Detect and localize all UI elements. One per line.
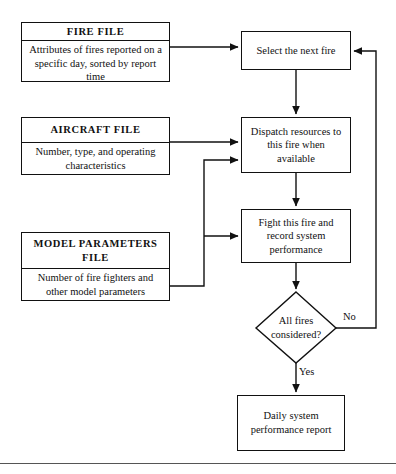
select-next-fire-label: Select the next fire <box>256 44 335 58</box>
fight-fire-label: Fight this fire and record system perfor… <box>247 216 345 257</box>
fight-fire-node: Fight this fire and record system perfor… <box>241 209 351 263</box>
fire-file-description: Attributes of fires reported on a specif… <box>22 41 169 85</box>
dispatch-resources-node: Dispatch resources to this fire when ava… <box>241 117 351 173</box>
model-parameters-file-description: Number of fire fighters and other model … <box>22 269 169 300</box>
fire-file-title: FIRE FILE <box>22 23 169 41</box>
dispatch-resources-label: Dispatch resources to this fire when ava… <box>247 125 345 166</box>
decision-branch-label-yes: Yes <box>299 366 314 377</box>
decision-branch-label-no: No <box>343 311 356 322</box>
aircraft-file-description: Number, type, and operating characterist… <box>22 143 169 174</box>
footer-divider <box>0 463 396 464</box>
aircraft-file-title: AIRCRAFT FILE <box>22 118 169 143</box>
aircraft-file-node: AIRCRAFT FILE Number, type, and operatin… <box>21 117 170 175</box>
all-fires-considered-decision: All fires considered? <box>256 292 336 363</box>
daily-report-label: Daily system performance report <box>243 409 339 436</box>
edge-decision-no-to-select <box>336 51 376 328</box>
daily-report-node: Daily system performance report <box>237 395 345 451</box>
flowchart-canvas: FIRE FILE Attributes of fires reported o… <box>0 0 396 474</box>
model-parameters-file-node: MODEL PARAMETERS FILE Number of fire fig… <box>21 232 170 301</box>
all-fires-considered-label: All fires considered? <box>256 292 336 363</box>
model-parameters-file-title: MODEL PARAMETERS FILE <box>22 233 169 269</box>
fire-file-node: FIRE FILE Attributes of fires reported o… <box>21 22 170 82</box>
select-next-fire-node: Select the next fire <box>241 31 351 70</box>
edge-model-params-to-dispatch <box>170 160 238 286</box>
